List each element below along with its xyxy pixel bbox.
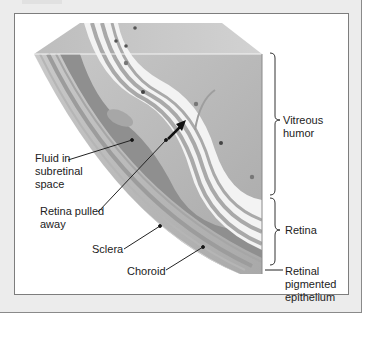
block-top-face	[34, 23, 262, 54]
label-fluid-subretinal-space: Fluid in subretinal space	[35, 152, 83, 191]
label-retina: Retina	[285, 224, 317, 237]
brace-vitreous	[270, 53, 280, 195]
label-vitreous-humor: Vitreous humor	[283, 114, 323, 140]
label-choroid: Choroid	[127, 265, 166, 278]
label-retinal-pigmented-epithelium: Retinal pigmented epithelium	[285, 265, 336, 304]
leader-choroid	[166, 247, 203, 270]
label-retina-pulled-away: Retina pulled away	[40, 205, 104, 231]
label-sclera: Sclera	[92, 243, 123, 256]
leader-sclera	[124, 226, 160, 249]
brace-retina	[270, 198, 280, 265]
